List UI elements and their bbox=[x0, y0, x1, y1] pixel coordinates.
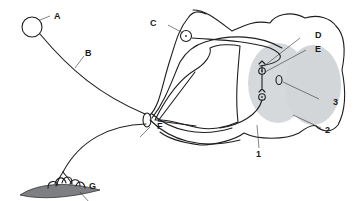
label-a: A bbox=[54, 11, 61, 21]
label-d: D bbox=[315, 30, 322, 40]
dorsal-root-outer bbox=[150, 12, 206, 115]
receptor-a bbox=[22, 17, 42, 37]
nerve-fiber-skin bbox=[63, 124, 146, 172]
label-2: 2 bbox=[325, 125, 330, 135]
label-b: B bbox=[85, 48, 92, 58]
label-1: 1 bbox=[256, 149, 261, 159]
reflex-arc-diagram: A B C D E F G 1 2 3 bbox=[0, 0, 357, 201]
label-e: E bbox=[315, 44, 321, 54]
nerve-fiber-b bbox=[40, 34, 145, 114]
skin-patch-g bbox=[20, 172, 100, 198]
label-3: 3 bbox=[333, 97, 338, 107]
label-g: G bbox=[89, 181, 96, 191]
root-inner-loop bbox=[155, 45, 240, 129]
label-f: F bbox=[157, 121, 163, 131]
ventral-root-inner bbox=[152, 114, 232, 132]
label-c: C bbox=[150, 18, 157, 28]
